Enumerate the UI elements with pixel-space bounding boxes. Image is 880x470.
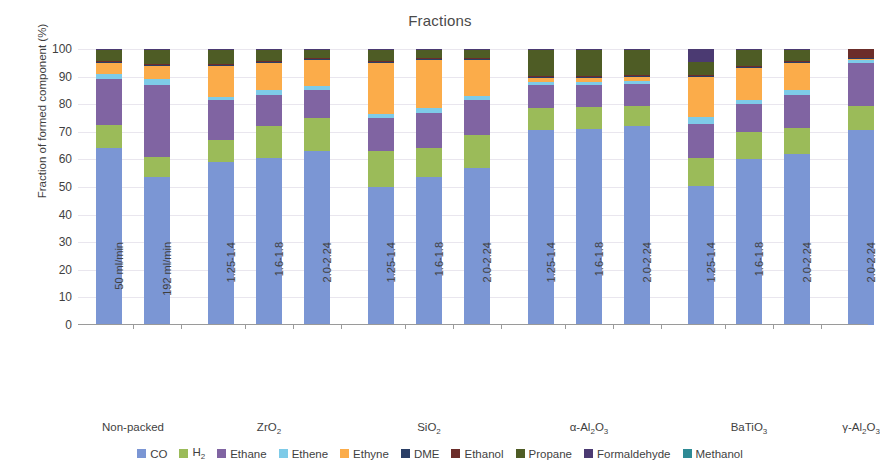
- legend-swatch-icon: [584, 449, 593, 458]
- x-axis-group-label: BaTiO3: [731, 421, 768, 436]
- bar-segment[interactable]: [208, 66, 234, 98]
- bar-segment[interactable]: [368, 63, 394, 114]
- bar-segment[interactable]: [528, 50, 554, 76]
- x-axis-tick: [725, 325, 726, 329]
- bar-segment[interactable]: [208, 140, 234, 162]
- bar-segment[interactable]: [464, 60, 490, 96]
- bar-segment[interactable]: [208, 50, 234, 64]
- legend-swatch-icon: [340, 449, 349, 458]
- bar-segment[interactable]: [848, 63, 874, 106]
- bar-segment[interactable]: [464, 135, 490, 168]
- bar-segment[interactable]: [368, 118, 394, 151]
- bar-segment[interactable]: [688, 49, 714, 62]
- x-axis-tick-label: 2.0-2.24: [866, 242, 877, 332]
- chart-title: Fractions: [0, 12, 880, 29]
- legend-swatch-icon: [683, 449, 692, 458]
- x-axis-tick-label: 2.0-2.24: [642, 242, 653, 332]
- legend-swatch-icon: [516, 449, 525, 458]
- legend-item[interactable]: Ethyne: [340, 448, 389, 460]
- bar-segment[interactable]: [416, 148, 442, 177]
- bar-segment[interactable]: [304, 60, 330, 86]
- legend-item[interactable]: CO: [137, 448, 167, 460]
- bar-segment[interactable]: [416, 50, 442, 58]
- bar-segment[interactable]: [304, 118, 330, 151]
- bar-segment[interactable]: [784, 128, 810, 154]
- legend-item[interactable]: Propane: [516, 448, 572, 460]
- x-axis-tick: [133, 325, 134, 329]
- bar-segment[interactable]: [624, 106, 650, 127]
- legend-item[interactable]: Ethane: [217, 448, 266, 460]
- bar-segment[interactable]: [736, 132, 762, 160]
- bar-segment[interactable]: [96, 125, 122, 148]
- bar-segment[interactable]: [368, 50, 394, 61]
- bar-segment[interactable]: [688, 117, 714, 124]
- bar-segment[interactable]: [96, 63, 122, 74]
- bar-segment[interactable]: [96, 79, 122, 125]
- legend-item[interactable]: DME: [401, 448, 440, 460]
- bar-segment[interactable]: [848, 106, 874, 131]
- bar-segment[interactable]: [576, 50, 602, 76]
- bar-segment[interactable]: [96, 50, 122, 61]
- bar-segment[interactable]: [688, 77, 714, 117]
- legend-label: Ethanol: [464, 448, 503, 460]
- bar-segment[interactable]: [256, 95, 282, 127]
- bar-segment[interactable]: [528, 108, 554, 130]
- bar-segment[interactable]: [624, 50, 650, 75]
- bar-segment[interactable]: [736, 104, 762, 132]
- chart-legend: COH2EthaneEtheneEthyneDMEEthanolPropaneF…: [0, 446, 880, 461]
- legend-swatch-icon: [401, 449, 410, 458]
- x-axis-tick-label: 1.25-1.4: [226, 242, 237, 332]
- bar-segment[interactable]: [624, 84, 650, 106]
- bar-segment[interactable]: [784, 63, 810, 91]
- bar-segment[interactable]: [144, 85, 170, 157]
- bar-segment[interactable]: [464, 50, 490, 58]
- bar-segment[interactable]: [416, 113, 442, 149]
- bar-segment[interactable]: [368, 151, 394, 187]
- legend-item[interactable]: Formaldehyde: [584, 448, 671, 460]
- legend-label: Propane: [529, 448, 572, 460]
- bar-segment[interactable]: [688, 158, 714, 186]
- x-axis-tick-label: 1.25-1.4: [546, 242, 557, 332]
- legend-swatch-icon: [217, 449, 226, 458]
- x-axis-line: [78, 324, 868, 325]
- bar-segment[interactable]: [736, 50, 762, 67]
- x-axis-tick: [821, 325, 822, 329]
- bar-segment[interactable]: [528, 85, 554, 108]
- legend-item[interactable]: H2: [179, 446, 205, 461]
- x-axis-tick: [181, 325, 182, 329]
- y-axis-tick-label: 0: [38, 319, 72, 331]
- x-axis-tick: [565, 325, 566, 329]
- bar-segment[interactable]: [688, 124, 714, 159]
- y-axis-tick-label: 100: [38, 43, 72, 55]
- legend-label: Methanol: [696, 448, 743, 460]
- bar-segment[interactable]: [416, 60, 442, 108]
- bar-segment[interactable]: [784, 95, 810, 128]
- bar-segment[interactable]: [144, 66, 170, 80]
- bar-segment[interactable]: [256, 50, 282, 61]
- bar-segment[interactable]: [304, 50, 330, 58]
- legend-item[interactable]: Ethanol: [451, 448, 503, 460]
- x-axis-tick: [245, 325, 246, 329]
- bar-segment[interactable]: [144, 157, 170, 178]
- x-axis-group-label: ZrO2: [257, 421, 281, 436]
- legend-item[interactable]: Ethene: [279, 448, 328, 460]
- legend-item[interactable]: Methanol: [683, 448, 743, 460]
- x-axis-tick: [661, 325, 662, 329]
- bar-segment[interactable]: [736, 68, 762, 100]
- legend-label: H2: [192, 446, 205, 461]
- y-axis-tick-label: 80: [38, 98, 72, 110]
- bar-segment[interactable]: [256, 63, 282, 91]
- bar-segment[interactable]: [144, 50, 170, 64]
- bar-segment[interactable]: [208, 100, 234, 140]
- bar-segment[interactable]: [464, 100, 490, 135]
- x-axis-tick: [773, 325, 774, 329]
- bar-segment[interactable]: [576, 85, 602, 107]
- bar-segment[interactable]: [784, 50, 810, 61]
- bar-segment[interactable]: [256, 126, 282, 158]
- bar-segment[interactable]: [688, 62, 714, 74]
- bar-segment[interactable]: [304, 90, 330, 118]
- bar-segment[interactable]: [576, 107, 602, 129]
- x-axis-tick-label: 192 ml/min: [162, 242, 173, 332]
- bar-segment[interactable]: [848, 49, 874, 57]
- y-axis-tick-label: 50: [38, 181, 72, 193]
